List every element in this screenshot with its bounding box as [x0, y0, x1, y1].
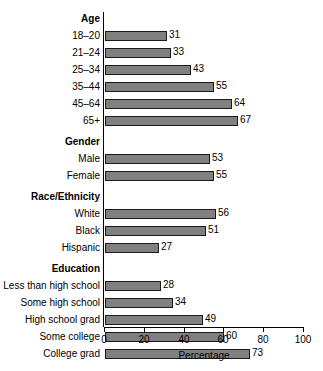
category-label: 35–44 — [0, 81, 100, 93]
x-tick — [104, 328, 105, 332]
x-tick-label: 0 — [101, 334, 107, 346]
x-tick-label: 100 — [295, 334, 312, 346]
bar-value-label: 28 — [163, 279, 174, 291]
bar — [105, 315, 203, 325]
bar-row: Black51 — [0, 223, 323, 240]
bar-value-label: 51 — [208, 224, 219, 236]
bar-value-label: 55 — [216, 169, 227, 181]
x-tick — [303, 328, 304, 332]
category-label: 45–64 — [0, 98, 100, 110]
group-header-row: Education — [0, 261, 323, 278]
x-tick — [184, 328, 185, 332]
x-tick-label: 60 — [217, 334, 228, 346]
bar — [105, 171, 214, 181]
bar-row: College grad73 — [0, 346, 323, 363]
x-axis-title: Percentage — [178, 350, 229, 362]
x-tick — [223, 328, 224, 332]
bar — [105, 82, 214, 92]
category-label: Less than high school — [0, 280, 100, 292]
category-label: Some college — [0, 331, 100, 343]
category-label: Black — [0, 225, 100, 237]
bar-row: High school grad49 — [0, 312, 323, 329]
bar-value-label: 34 — [175, 296, 186, 308]
group-header-row: Age — [0, 11, 323, 28]
bar-row: 65+67 — [0, 113, 323, 130]
bar — [105, 154, 210, 164]
bar — [105, 226, 206, 236]
bar-row: 21–2433 — [0, 45, 323, 62]
bar — [105, 116, 238, 126]
bar — [105, 65, 191, 75]
bar — [105, 48, 171, 58]
bar — [105, 332, 224, 342]
bar — [105, 298, 173, 308]
bar-row: Less than high school28 — [0, 278, 323, 295]
x-tick — [263, 328, 264, 332]
bar-value-label: 27 — [161, 241, 172, 253]
bar-row: Hispanic27 — [0, 240, 323, 257]
x-tick — [144, 328, 145, 332]
group-label: Gender — [0, 136, 100, 148]
category-label: 65+ — [0, 115, 100, 127]
bar-value-label: 56 — [218, 207, 229, 219]
x-tick-label: 20 — [138, 334, 149, 346]
bar-row: Male53 — [0, 151, 323, 168]
bar-value-label: 64 — [234, 97, 245, 109]
bar-row: 35–4455 — [0, 79, 323, 96]
category-label: Male — [0, 153, 100, 165]
x-tick-label: 80 — [257, 334, 268, 346]
category-label: High school grad — [0, 314, 100, 326]
category-label: 18–20 — [0, 30, 100, 42]
group-header-row: Gender — [0, 134, 323, 151]
bar-row: Female55 — [0, 168, 323, 185]
category-label: Hispanic — [0, 242, 100, 254]
bar-value-label: 55 — [216, 80, 227, 92]
group-label: Education — [0, 263, 100, 275]
category-label: White — [0, 208, 100, 220]
group-label: Age — [0, 13, 100, 25]
group-header-row: Race/Ethnicity — [0, 189, 323, 206]
bar-value-label: 43 — [193, 63, 204, 75]
bar — [105, 99, 232, 109]
bar-row: 18–2031 — [0, 28, 323, 45]
bar-row: 45–6464 — [0, 96, 323, 113]
bar — [105, 281, 161, 291]
bar-row: Some high school34 — [0, 295, 323, 312]
bar-row: Some college60 — [0, 329, 323, 346]
category-label: College grad — [0, 348, 100, 360]
category-label: Some high school — [0, 297, 100, 309]
bar-value-label: 73 — [252, 347, 263, 359]
bar-value-label: 33 — [173, 46, 184, 58]
bar-value-label: 31 — [169, 29, 180, 41]
bar — [105, 243, 159, 253]
x-tick-label: 40 — [178, 334, 189, 346]
category-label: Female — [0, 170, 100, 182]
category-label: 21–24 — [0, 47, 100, 59]
category-label: 25–34 — [0, 64, 100, 76]
bar-value-label: 49 — [205, 313, 216, 325]
bar-row: White56 — [0, 206, 323, 223]
bar-chart: Age18–203121–243325–344335–445545–646465… — [0, 0, 323, 371]
bar-value-label: 67 — [240, 114, 251, 126]
bar — [105, 31, 167, 41]
bar — [105, 209, 216, 219]
group-label: Race/Ethnicity — [0, 191, 100, 203]
bar-row: 25–3443 — [0, 62, 323, 79]
bar-value-label: 53 — [212, 152, 223, 164]
